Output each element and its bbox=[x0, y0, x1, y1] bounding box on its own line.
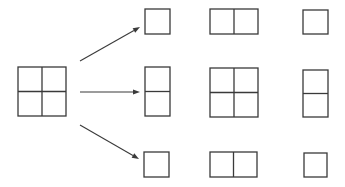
top-right-box bbox=[303, 10, 328, 34]
box-outline bbox=[144, 152, 169, 177]
top-left-box bbox=[145, 9, 170, 34]
top-row bbox=[145, 9, 328, 34]
source-grid-2x2 bbox=[18, 67, 66, 116]
arrowhead-icon bbox=[133, 27, 140, 33]
arrow-shaft bbox=[80, 30, 134, 61]
bottom-right-box bbox=[304, 153, 327, 177]
bottom-row bbox=[144, 152, 327, 177]
middle-left-box bbox=[145, 67, 170, 116]
bottom-left-box bbox=[144, 152, 169, 177]
box-outline bbox=[145, 9, 170, 34]
arrows bbox=[80, 27, 140, 159]
box-outline bbox=[304, 153, 327, 177]
arrow-to-top-row bbox=[80, 27, 140, 61]
diagram-canvas bbox=[0, 0, 345, 187]
source-grid bbox=[18, 67, 66, 116]
arrowhead-icon bbox=[133, 89, 140, 94]
middle-right-box bbox=[303, 70, 328, 117]
arrow-to-middle-row bbox=[80, 89, 140, 94]
bottom-center-box bbox=[210, 152, 257, 177]
middle-row bbox=[145, 67, 328, 117]
target-grids bbox=[144, 9, 328, 177]
arrow-shaft bbox=[80, 125, 133, 156]
top-center-box bbox=[210, 9, 258, 34]
arrowhead-icon bbox=[132, 153, 139, 159]
arrow-to-bottom-row bbox=[80, 125, 139, 159]
box-outline bbox=[303, 10, 328, 34]
middle-center-box bbox=[210, 68, 258, 117]
